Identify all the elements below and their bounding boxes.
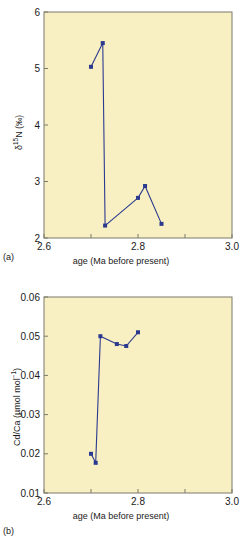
- x-axis-tick-label: 2.8: [131, 241, 145, 252]
- chart-b-plot: 2.62.83.00.010.020.030.040.050.06: [0, 271, 242, 542]
- plot-area-background: [44, 297, 232, 493]
- data-point-marker[interactable]: [136, 196, 140, 200]
- x-axis-tick-label: 3.0: [225, 241, 239, 252]
- figure-container: 2.62.83.023456 δ15N (‰) age (Ma before p…: [0, 0, 242, 542]
- data-point-marker[interactable]: [160, 222, 164, 226]
- y-axis-tick-label: 0.05: [21, 331, 41, 342]
- y-axis-tick-label: 0.03: [21, 409, 41, 420]
- data-point-marker[interactable]: [115, 342, 119, 346]
- data-point-marker[interactable]: [136, 330, 140, 334]
- data-point-marker[interactable]: [89, 452, 93, 456]
- y-axis-tick-label: 0.04: [21, 370, 41, 381]
- data-point-marker[interactable]: [89, 65, 93, 69]
- panel-a-tag: (a): [3, 252, 14, 262]
- data-point-marker[interactable]: [98, 334, 102, 338]
- chart-b-y-axis-label: Cd/Ca (µmol mol−1): [12, 368, 22, 446]
- y-axis-tick-label: 5: [34, 63, 40, 74]
- data-point-marker[interactable]: [94, 461, 98, 465]
- y-axis-tick-label: 4: [34, 120, 40, 131]
- y-axis-tick-label: 0.06: [21, 292, 41, 303]
- y-axis-tick-label: 2: [34, 233, 40, 244]
- y-axis-tick-label: 0.02: [21, 448, 41, 459]
- data-point-marker[interactable]: [124, 344, 128, 348]
- y-axis-tick-label: 0.01: [21, 488, 41, 499]
- x-axis-tick-label: 2.8: [131, 496, 145, 507]
- y-axis-tick-label: 6: [34, 7, 40, 18]
- chart-a-x-axis-label: age (Ma before present): [0, 256, 242, 266]
- data-point-marker[interactable]: [143, 184, 147, 188]
- x-axis-tick-label: 3.0: [225, 496, 239, 507]
- chart-a-plot: 2.62.83.023456: [0, 0, 242, 271]
- chart-panel-b: 2.62.83.00.010.020.030.040.050.06 Cd/Ca …: [0, 271, 242, 542]
- data-point-marker[interactable]: [101, 41, 105, 45]
- y-axis-tick-label: 3: [34, 176, 40, 187]
- plot-area-background: [44, 12, 232, 238]
- data-point-marker[interactable]: [103, 224, 107, 228]
- chart-b-x-axis-label: age (Ma before present): [0, 511, 242, 521]
- chart-a-y-axis-label: δ15N (‰): [14, 115, 24, 150]
- chart-panel-a: 2.62.83.023456 δ15N (‰) age (Ma before p…: [0, 0, 242, 271]
- panel-b-tag: (b): [3, 526, 14, 536]
